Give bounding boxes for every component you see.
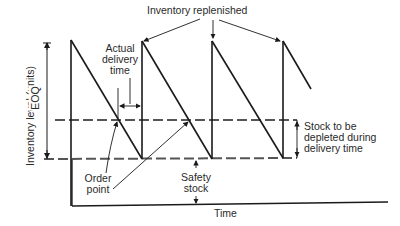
safety-stock-label: Safety stock xyxy=(176,172,216,194)
replenished-arrows xyxy=(144,19,280,41)
safety-stock-dashed-line xyxy=(44,158,297,159)
stock-depleted-label: Stock to be depleted during delivery tim… xyxy=(304,121,376,154)
eoq-label: EOQ xyxy=(29,85,41,110)
inventory-diagram: Inventory level (units) EOQ Inventory re… xyxy=(0,0,400,226)
delivery-time-dimension xyxy=(118,78,140,118)
actual-delivery-time-label: Actual delivery time xyxy=(92,43,148,76)
inventory-replenished-label: Inventory replenished xyxy=(147,5,247,16)
order-point-label: Order point xyxy=(78,173,118,195)
y-axis-label: Inventory level (units) xyxy=(24,56,36,176)
eoq-dimension xyxy=(43,43,51,159)
x-axis-label: Time xyxy=(214,208,237,219)
x-axis-line xyxy=(72,202,388,206)
order-point-pointer xyxy=(106,122,117,173)
